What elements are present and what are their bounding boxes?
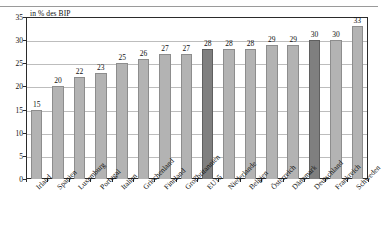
x-axis-category-labels: IrlandSpanienLuxemburgPortugalItalienGri… [26,183,368,247]
bar [31,110,43,179]
bar-value-label: 29 [283,35,304,44]
bar-slot [133,17,154,179]
bar [52,86,64,179]
y-axis-tick-labels: 05101520253035 [0,17,23,179]
y-axis-tick-label: 30 [1,36,23,45]
bar-value-label: 15 [26,100,47,109]
bar-value-label: 28 [240,39,261,48]
bar-value-label: 20 [47,76,68,85]
bars-layer: 15202223252627272828282929303033 [26,17,368,179]
y-axis-tick-label: 0 [1,175,23,184]
x-axis-tick-mark [26,179,27,182]
bar-value-label: 23 [90,63,111,72]
bar [287,45,299,179]
bar-slot [26,17,47,179]
bar [74,77,86,179]
bar-value-label: 27 [154,44,175,53]
bar [352,26,364,179]
y-axis-tick-label: 5 [1,151,23,160]
bar-value-label: 22 [69,67,90,76]
bar [266,45,278,179]
bar-value-label: 28 [218,39,239,48]
bar [309,40,321,179]
bar-slot [304,17,325,179]
bar [181,54,193,179]
bar-value-label: 26 [133,49,154,58]
bar-value-label: 29 [261,35,282,44]
bar-slot [154,17,175,179]
bar-slot [47,17,68,179]
y-axis-tick-label: 25 [1,59,23,68]
y-axis-tick-label: 10 [1,128,23,137]
bar [116,63,128,179]
y-axis-tick-label: 15 [1,105,23,114]
bar-value-label: 27 [176,44,197,53]
bar-slot [69,17,90,179]
bar-slot [325,17,346,179]
bar-value-label: 30 [325,30,346,39]
bar-slot [112,17,133,179]
bar-value-label: 25 [112,53,133,62]
y-axis-tick-label: 35 [1,13,23,22]
bar-slot [90,17,111,179]
bar-value-label: 28 [197,39,218,48]
y-axis-tick-label: 20 [1,82,23,91]
bar [138,59,150,179]
bar-slot [347,17,368,179]
bar-value-label: 33 [347,16,368,25]
figure-top-rule [0,6,378,7]
bar-slot [176,17,197,179]
bar-value-label: 30 [304,30,325,39]
bar [223,49,235,179]
bar [330,40,342,179]
